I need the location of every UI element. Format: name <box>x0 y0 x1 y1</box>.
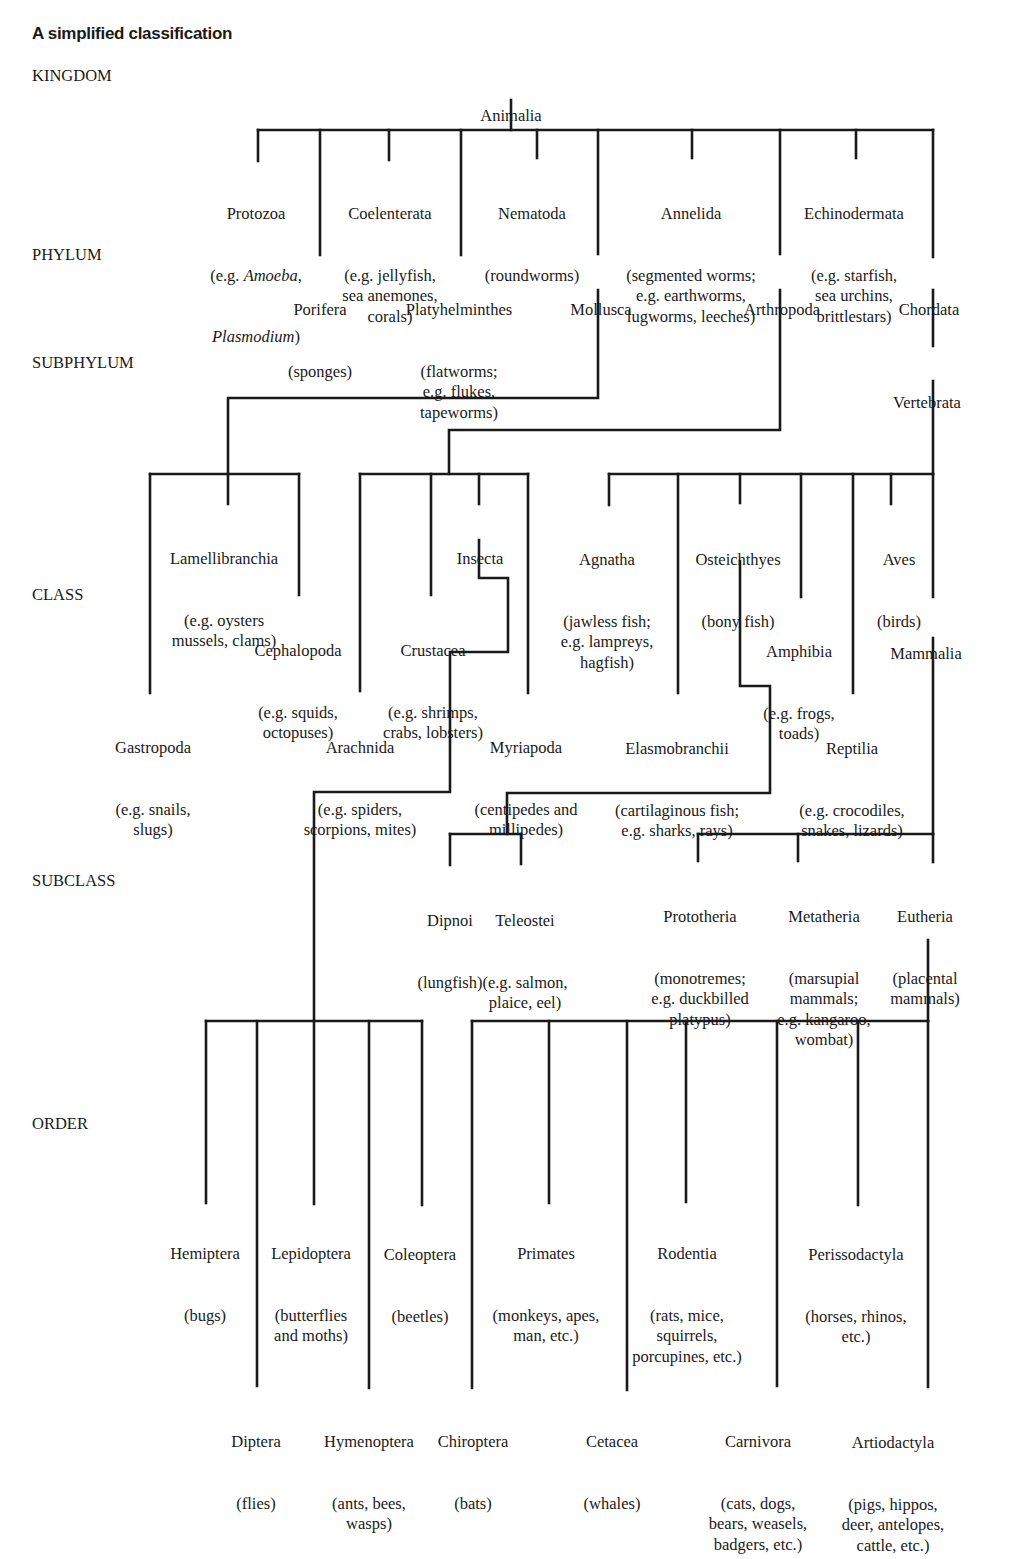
node-insecta: Insecta <box>457 508 504 590</box>
node-name: Insecta <box>457 549 504 570</box>
node-vertebrata: Vertebrata <box>893 352 961 434</box>
node-chiroptera: Chiroptera (bats) <box>438 1391 509 1535</box>
rank-label-kingdom: KINGDOM <box>32 66 112 86</box>
node-name: Coleoptera <box>384 1245 456 1266</box>
node-name: Teleostei <box>482 911 567 932</box>
node-name: Chiroptera <box>438 1432 509 1453</box>
node-name: Hemiptera <box>170 1244 240 1265</box>
node-name: Eutheria <box>890 907 960 928</box>
node-name: Elasmobranchii <box>615 739 739 760</box>
node-desc: (monkeys, apes, man, etc.) <box>493 1306 600 1347</box>
node-name: Prototheria <box>651 907 749 928</box>
node-artiodactyla: Artiodactyla (pigs, hippos, deer, antelo… <box>842 1392 944 1559</box>
node-name: Aves <box>877 550 921 571</box>
node-desc: (e.g. salmon, plaice, eel) <box>482 973 567 1014</box>
node-coleoptera: Coleoptera (beetles) <box>384 1204 456 1348</box>
node-lepidoptera: Lepidoptera (butterflies and moths) <box>271 1203 351 1367</box>
node-mammalia: Mammalia <box>890 603 961 685</box>
node-name: Diptera <box>231 1432 280 1453</box>
node-desc: (e.g. starfish, sea urchins, brittlestar… <box>804 266 904 328</box>
node-mollusca: Mollusca <box>570 259 631 341</box>
node-desc: (roundworms) <box>485 266 579 287</box>
node-name: Coelenterata <box>342 204 437 225</box>
node-name: Lepidoptera <box>271 1244 351 1265</box>
node-name: Crustacea <box>383 641 483 662</box>
node-name: Rodentia <box>632 1244 742 1265</box>
node-primates: Primates (monkeys, apes, man, etc.) <box>493 1203 600 1367</box>
node-agnatha: Agnatha (jawless fish; e.g. lampreys, ha… <box>561 509 654 694</box>
node-prototheria: Prototheria (monotremes; e.g. duckbilled… <box>651 866 749 1051</box>
node-name: Dipnoi <box>417 911 482 932</box>
node-name: Gastropoda <box>115 738 191 759</box>
node-name: Primates <box>493 1244 600 1265</box>
node-cetacea: Cetacea (whales) <box>584 1391 641 1535</box>
node-desc: (e.g. crocodiles, snakes, lizards) <box>799 801 904 842</box>
node-name: Carnivora <box>709 1432 808 1453</box>
node-desc: (bats) <box>438 1494 509 1515</box>
rank-label-phylum: PHYLUM <box>32 245 102 265</box>
rank-label-class: CLASS <box>32 585 83 605</box>
node-reptilia: Reptilia (e.g. crocodiles, snakes, lizar… <box>799 698 904 862</box>
node-diptera: Diptera (flies) <box>231 1391 280 1535</box>
node-chordata: Chordata <box>899 259 959 341</box>
node-name: Mammalia <box>890 644 961 665</box>
node-echinodermata: Echinodermata (e.g. starfish, sea urchin… <box>804 163 904 348</box>
node-desc: (e.g. spiders, scorpions, mites) <box>304 800 417 841</box>
node-desc: (lungfish) <box>417 973 482 994</box>
node-teleostei: Teleostei (e.g. salmon, plaice, eel) <box>482 870 567 1034</box>
rank-label-order: ORDER <box>32 1114 88 1134</box>
node-name: Hymenoptera <box>324 1432 414 1453</box>
node-name: Myriapoda <box>474 738 577 759</box>
node-name: Agnatha <box>561 550 654 571</box>
node-annelida: Annelida (segmented worms; e.g. earthwor… <box>626 163 756 348</box>
node-desc: (marsupial mammals; e.g. kangaroo, womba… <box>777 969 870 1051</box>
node-desc: (whales) <box>584 1494 641 1515</box>
node-elasmobranchii: Elasmobranchii (cartilaginous fish; e.g.… <box>615 698 739 862</box>
node-desc: (flies) <box>231 1494 280 1515</box>
node-animalia: Animalia <box>480 65 541 147</box>
node-name: Vertebrata <box>893 393 961 414</box>
node-name: Artiodactyla <box>842 1433 944 1454</box>
node-name: Cetacea <box>584 1432 641 1453</box>
node-name: Annelida <box>626 204 756 225</box>
node-desc: (e.g. snails, slugs) <box>115 800 191 841</box>
node-carnivora: Carnivora (cats, dogs, bears, weasels, b… <box>709 1391 808 1559</box>
node-name: Echinodermata <box>804 204 904 225</box>
node-desc: (rats, mice, squirrels, porcupines, etc.… <box>632 1306 742 1368</box>
node-arachnida: Arachnida (e.g. spiders, scorpions, mite… <box>304 697 417 861</box>
node-nematoda: Nematoda (roundworms) <box>485 163 579 307</box>
node-name: Perissodactyla <box>805 1245 906 1266</box>
diagram-title: A simplified classification <box>32 24 232 44</box>
node-desc: (placental mammals) <box>890 969 960 1010</box>
node-gastropoda: Gastropoda (e.g. snails, slugs) <box>115 697 191 861</box>
node-name: Animalia <box>480 106 541 127</box>
node-desc: (monotremes; e.g. duckbilled platypus) <box>651 969 749 1031</box>
node-eutheria: Eutheria (placental mammals) <box>890 866 960 1030</box>
node-desc: (cats, dogs, bears, weasels, badgers, et… <box>709 1494 808 1556</box>
node-desc: (centipedes and millipedes) <box>474 800 577 841</box>
node-name: Lamellibranchia <box>170 549 278 570</box>
node-desc: (ants, bees, wasps) <box>324 1494 414 1535</box>
node-desc: (segmented worms; e.g. earthworms, lugwo… <box>626 266 756 328</box>
node-desc: (cartilaginous fish; e.g. sharks, rays) <box>615 801 739 842</box>
node-metatheria: Metatheria (marsupial mammals; e.g. kang… <box>777 866 870 1071</box>
node-desc: (sponges) <box>288 362 352 383</box>
node-name: Protozoa <box>210 204 302 225</box>
node-name: Nematoda <box>485 204 579 225</box>
node-desc: (butterflies and moths) <box>271 1306 351 1347</box>
node-desc: (jawless fish; e.g. lampreys, hagfish) <box>561 612 654 674</box>
rank-label-subphylum: SUBPHYLUM <box>32 353 134 373</box>
node-desc: (pigs, hippos, deer, antelopes, cattle, … <box>842 1495 944 1557</box>
node-hymenoptera: Hymenoptera (ants, bees, wasps) <box>324 1391 414 1555</box>
node-name: Chordata <box>899 300 959 321</box>
node-dipnoi: Dipnoi (lungfish) <box>417 870 482 1014</box>
rank-label-subclass: SUBCLASS <box>32 871 115 891</box>
node-name: Osteichthyes <box>695 550 780 571</box>
node-name: Reptilia <box>799 739 904 760</box>
node-name: Mollusca <box>570 300 631 321</box>
node-desc: (beetles) <box>384 1307 456 1328</box>
node-desc: (flatworms; e.g. flukes, tapeworms) <box>406 362 512 424</box>
node-name: Amphibia <box>763 642 834 663</box>
node-desc: (bugs) <box>170 1306 240 1327</box>
node-myriapoda: Myriapoda (centipedes and millipedes) <box>474 697 577 861</box>
